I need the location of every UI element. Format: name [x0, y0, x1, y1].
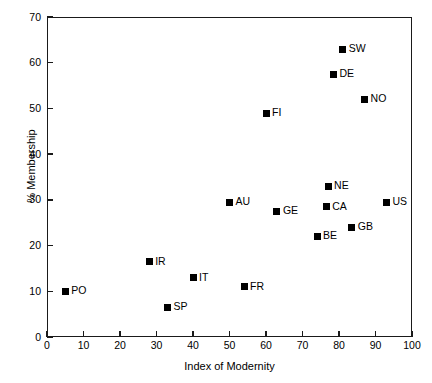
y-axis-tick	[47, 245, 53, 246]
data-point-label: IR	[155, 256, 166, 267]
y-axis-tick-label: 70	[13, 12, 41, 23]
data-point-label: IT	[199, 272, 208, 283]
y-axis-tick	[47, 153, 53, 154]
data-point-label: SW	[349, 43, 366, 54]
x-axis-tick	[46, 331, 47, 337]
y-axis-tick-label: 60	[13, 57, 41, 68]
data-point-marker	[241, 283, 248, 290]
scatter-chart-figure: 010203040506070 0102030405060708090100 P…	[0, 0, 432, 383]
data-point-marker	[314, 233, 321, 240]
data-point-marker	[273, 208, 280, 215]
y-axis-tick	[47, 199, 53, 200]
y-axis-tick	[47, 336, 53, 337]
x-axis-tick-label: 100	[397, 340, 427, 351]
x-axis-tick	[302, 331, 303, 337]
data-point-marker	[383, 199, 390, 206]
x-axis-tick	[119, 331, 120, 337]
x-axis-tick-label: 70	[288, 340, 318, 351]
plot-area-frame	[47, 17, 412, 337]
data-point-marker	[226, 199, 233, 206]
x-axis-tick	[156, 331, 157, 337]
data-point-marker	[62, 288, 69, 295]
data-point-marker	[263, 110, 270, 117]
x-axis-tick-label: 40	[178, 340, 208, 351]
data-point-marker	[323, 203, 330, 210]
y-axis-tick	[47, 16, 53, 17]
x-axis-title: Index of Modernity	[47, 360, 412, 372]
x-axis-tick	[83, 331, 84, 337]
x-axis-tick-label: 10	[69, 340, 99, 351]
x-axis-tick	[411, 331, 412, 337]
data-point-label: CA	[332, 201, 347, 212]
data-point-label: NE	[334, 180, 349, 191]
data-point-marker	[146, 258, 153, 265]
x-axis-tick-label: 30	[142, 340, 172, 351]
y-axis-tick	[47, 291, 53, 292]
y-axis-tick-label: 10	[13, 286, 41, 297]
x-axis-tick-label: 50	[215, 340, 245, 351]
data-point-label: BE	[323, 230, 337, 241]
y-axis-tick	[47, 62, 53, 63]
data-point-label: DE	[340, 68, 355, 79]
y-axis-tick	[47, 108, 53, 109]
data-point-marker	[190, 274, 197, 281]
data-point-marker	[330, 71, 337, 78]
data-point-marker	[361, 96, 368, 103]
data-point-marker	[348, 224, 355, 231]
x-axis-tick	[192, 331, 193, 337]
x-axis-tick-label: 20	[105, 340, 135, 351]
x-axis-tick-label: 60	[251, 340, 281, 351]
x-axis-tick-label: 80	[324, 340, 354, 351]
x-axis-tick	[375, 331, 376, 337]
data-point-label: GE	[283, 205, 298, 216]
data-point-label: FI	[272, 107, 281, 118]
data-point-label: SP	[173, 301, 187, 312]
y-axis-title: % Membership	[25, 86, 37, 246]
x-axis-tick	[338, 331, 339, 337]
data-point-marker	[164, 304, 171, 311]
data-point-label: PO	[71, 285, 86, 296]
x-axis-tick	[265, 331, 266, 337]
data-point-label: GB	[358, 221, 373, 232]
data-point-marker	[325, 183, 332, 190]
data-point-marker	[339, 46, 346, 53]
data-point-label: AU	[236, 196, 251, 207]
data-point-label: FR	[250, 281, 264, 292]
data-point-label: US	[392, 196, 407, 207]
data-point-label: NO	[371, 93, 387, 104]
x-axis-tick	[229, 331, 230, 337]
x-axis-tick-label: 90	[361, 340, 391, 351]
x-axis-tick-label: 0	[32, 340, 62, 351]
